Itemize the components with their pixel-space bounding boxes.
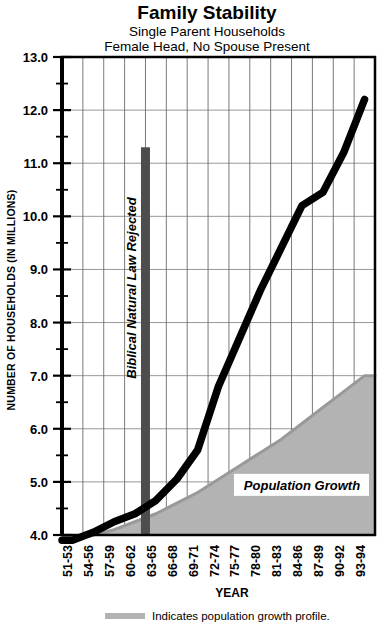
y-axis-tick-label: 8.0 — [30, 316, 48, 331]
y-axis-tick-label: 6.0 — [30, 422, 48, 437]
x-axis-title: YEAR — [215, 586, 249, 600]
y-axis-tick-label: 4.0 — [30, 528, 48, 543]
y-axis-tick-label: 5.0 — [30, 475, 48, 490]
legend-swatch-population-growth — [105, 613, 145, 619]
annotation-population-growth-group: Population Growth — [234, 474, 369, 496]
x-axis-tick-label: 93-94 — [354, 545, 368, 577]
annotation-population-growth: Population Growth — [244, 478, 360, 493]
chart-title: Family Stability — [137, 2, 277, 23]
chart-subtitle-line-2: Female Head, No Spouse Present — [104, 39, 310, 54]
x-axis-tick-label: 84-86 — [291, 545, 305, 577]
x-axis-tick-label: 51-53 — [61, 545, 75, 577]
x-axis-tick-label: 54-56 — [82, 545, 96, 577]
legend-label-population-growth: Indicates population growth profile. — [152, 610, 330, 622]
y-axis-tick-label: 7.0 — [30, 369, 48, 384]
annotation-biblical-natural-law-rejected: Biblical Natural Law Rejected — [124, 196, 139, 378]
x-axis-tick-label: 90-92 — [333, 545, 347, 577]
x-axis-tick-label: 81-83 — [270, 545, 284, 577]
y-axis-tick-label: 13.0 — [23, 50, 48, 65]
x-axis-tick-label: 72-74 — [208, 545, 222, 577]
x-axis-tick-label: 60-62 — [124, 545, 138, 577]
y-axis-tick-label: 12.0 — [23, 103, 48, 118]
biblical-natural-law-rejected-bar — [141, 147, 150, 535]
x-axis-tick-label: 78-80 — [249, 545, 263, 577]
y-axis-title: NUMBER OF HOUSEHOLDS (IN MILLIONS) — [5, 190, 17, 411]
chart-subtitle-line-1: Single Parent Households — [129, 24, 285, 39]
x-axis-tick-label: 66-68 — [166, 545, 180, 577]
x-axis-tick-labels: 51-5354-5657-5960-6263-6566-6869-7172-74… — [61, 545, 367, 577]
x-axis-tick-label: 63-65 — [145, 545, 159, 577]
family-stability-chart: Family Stability Single Parent Household… — [0, 0, 390, 629]
x-axis-tick-label: 69-71 — [187, 545, 201, 577]
x-axis-tick-label: 75-77 — [228, 545, 242, 577]
y-axis-tick-label: 11.0 — [23, 156, 48, 171]
y-axis-tick-label: 10.0 — [23, 209, 48, 224]
y-axis-tick-label: 9.0 — [30, 262, 48, 277]
x-axis-tick-label: 57-59 — [103, 545, 117, 577]
x-axis-tick-label: 87-89 — [312, 545, 326, 577]
